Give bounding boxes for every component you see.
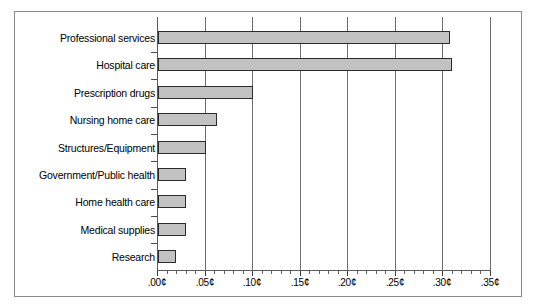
x-axis-tick-minor — [176, 271, 177, 274]
x-axis-tick-minor — [433, 271, 434, 274]
x-axis-tick-minor — [224, 271, 225, 274]
x-axis-tick-minor — [243, 271, 244, 274]
bar — [158, 250, 176, 263]
x-axis-line — [157, 270, 491, 271]
x-axis-tick-minor — [471, 271, 472, 274]
x-axis-tick-major — [442, 271, 443, 276]
y-axis-tick — [151, 189, 157, 190]
x-axis-tick-minor — [186, 271, 187, 274]
gridline — [490, 17, 491, 271]
gridline — [442, 17, 443, 271]
category-label: Professional services — [60, 32, 155, 44]
y-axis-tick — [151, 243, 157, 244]
category-label: Research — [112, 251, 155, 263]
x-axis-tick-minor — [214, 271, 215, 274]
bar — [158, 58, 452, 71]
x-axis-tick-major — [300, 271, 301, 276]
y-axis-tick — [151, 107, 157, 108]
x-axis-tick-minor — [328, 271, 329, 274]
x-axis-tick-major — [490, 271, 491, 276]
y-axis-tick — [151, 52, 157, 53]
gridline — [395, 17, 396, 271]
x-axis-tick-minor — [309, 271, 310, 274]
x-axis-tick-minor — [319, 271, 320, 274]
x-axis-tick-minor — [262, 271, 263, 274]
x-axis-tick-minor — [195, 271, 196, 274]
bar — [158, 141, 206, 154]
x-axis-tick-minor — [452, 271, 453, 274]
category-label: Medical supplies — [81, 224, 155, 236]
x-axis-tick-minor — [167, 271, 168, 274]
bar — [158, 86, 253, 99]
y-axis-tick — [151, 134, 157, 135]
category-label: Nursing home care — [70, 114, 155, 126]
y-axis-tick — [151, 216, 157, 217]
y-axis-tick — [151, 161, 157, 162]
bar — [158, 113, 217, 126]
category-label: Hospital care — [96, 59, 155, 71]
x-axis-tick-minor — [366, 271, 367, 274]
gridline — [347, 17, 348, 271]
x-axis-tick-minor — [423, 271, 424, 274]
x-axis-tick-minor — [357, 271, 358, 274]
category-label: Prescription drugs — [74, 87, 155, 99]
x-axis-tick-minor — [404, 271, 405, 274]
bar — [158, 31, 450, 44]
bar — [158, 195, 186, 208]
gridline — [252, 17, 253, 271]
x-axis-tick-minor — [281, 271, 282, 274]
y-axis-tick — [151, 79, 157, 80]
x-axis-tick-minor — [414, 271, 415, 274]
x-axis-tick-label: .35¢ — [460, 277, 520, 288]
x-axis-tick-minor — [233, 271, 234, 274]
x-axis-tick-minor — [480, 271, 481, 274]
x-axis-tick-major — [205, 271, 206, 276]
bar — [158, 223, 186, 236]
x-axis-tick-minor — [385, 271, 386, 274]
gridline — [300, 17, 301, 271]
x-axis-tick-minor — [461, 271, 462, 274]
x-axis-tick-major — [252, 271, 253, 276]
x-axis-tick-minor — [271, 271, 272, 274]
category-label: Home health care — [75, 196, 155, 208]
bar-chart: .00¢.05¢.10¢.15¢.20¢.25¢.30¢.35¢ Profess… — [0, 0, 536, 307]
x-axis-tick-minor — [338, 271, 339, 274]
x-axis-tick-major — [347, 271, 348, 276]
x-axis-tick-major — [157, 271, 158, 276]
category-label: Structures/Equipment — [58, 142, 155, 154]
x-axis-tick-minor — [290, 271, 291, 274]
x-axis-tick-major — [395, 271, 396, 276]
bar — [158, 168, 186, 181]
x-axis-tick-minor — [376, 271, 377, 274]
category-label: Government/Public health — [39, 169, 155, 181]
